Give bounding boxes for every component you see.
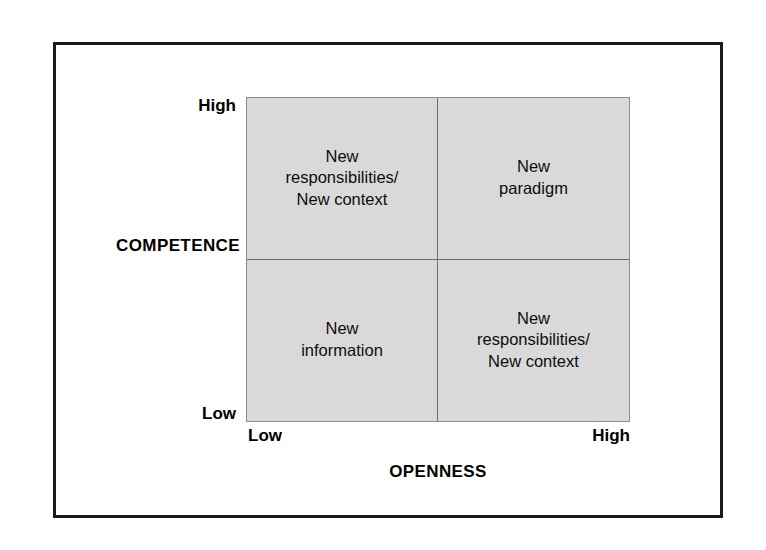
- quadrant-label: New paradigm: [499, 156, 568, 200]
- x-axis-title: OPENNESS: [338, 462, 538, 482]
- x-axis-low-tick-label: Low: [248, 426, 282, 446]
- y-axis-high-tick-label: High: [140, 96, 236, 116]
- x-axis-high-tick-label: High: [530, 426, 630, 446]
- quadrant-high-competence-high-openness: New paradigm: [438, 98, 629, 260]
- matrix-grid: New responsibilities/ New context New pa…: [246, 97, 630, 422]
- quadrant-label: New responsibilities/ New context: [477, 308, 590, 373]
- quadrant-label: New information: [301, 318, 383, 362]
- y-axis-low-tick-label: Low: [140, 404, 236, 424]
- quadrant-low-competence-low-openness: New information: [247, 260, 438, 422]
- y-axis-title: COMPETENCE: [80, 236, 240, 256]
- figure-root: COMPETENCE High Low New responsibilities…: [0, 0, 766, 550]
- quadrant-high-competence-low-openness: New responsibilities/ New context: [247, 98, 438, 260]
- quadrant-low-competence-high-openness: New responsibilities/ New context: [438, 260, 629, 422]
- quadrant-label: New responsibilities/ New context: [286, 146, 399, 211]
